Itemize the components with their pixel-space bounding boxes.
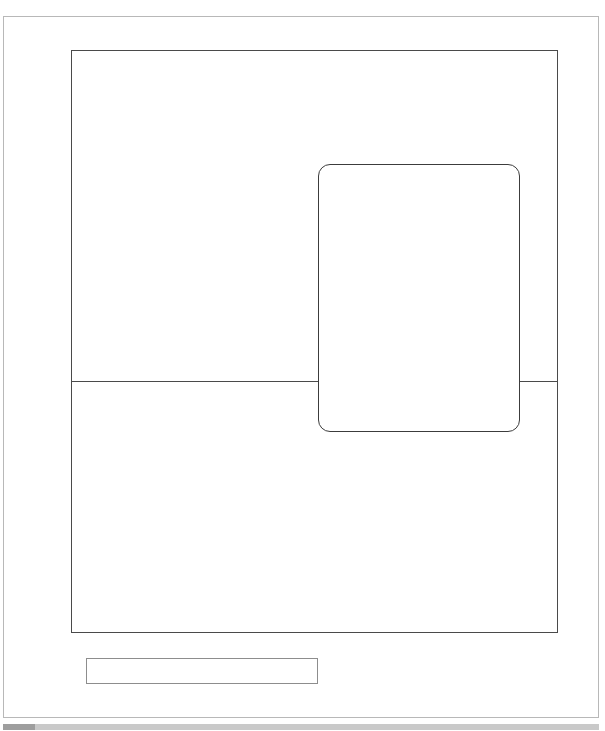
footer-bar-cap <box>3 724 35 730</box>
y-axis-labels <box>20 0 58 731</box>
footer-bar <box>3 724 599 730</box>
x-axis-category-labels <box>71 640 558 660</box>
fishers-bar-chart <box>0 0 605 731</box>
chart-legend <box>86 658 318 684</box>
top-exporters-inset <box>318 164 520 432</box>
